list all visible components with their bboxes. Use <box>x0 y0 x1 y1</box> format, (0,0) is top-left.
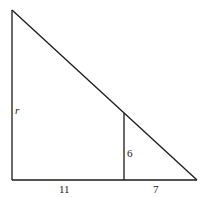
label-base-left: 11 <box>59 183 70 195</box>
triangle-diagram: r 6 11 7 <box>0 0 200 197</box>
label-inner-height: 6 <box>127 147 133 159</box>
label-base-right: 7 <box>153 183 159 195</box>
label-r: r <box>15 104 20 116</box>
hypotenuse-line <box>12 10 197 180</box>
